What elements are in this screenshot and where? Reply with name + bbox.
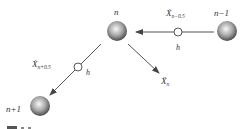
edge-line (81, 44, 101, 64)
particle-chain-diagram: n n−1 n+1 Ẋn−0.5 h Ẋn+0.5 h Ẍn (0, 0, 242, 129)
edge-n-minus-1-to-n (136, 28, 214, 36)
acceleration-arrow (128, 44, 159, 73)
label-n: n (114, 7, 119, 17)
label-n-minus-1: n−1 (214, 8, 229, 18)
caption-glyph (7, 126, 17, 129)
label-n-plus-1: n+1 (6, 104, 21, 114)
spring-label-left: h (86, 68, 90, 77)
particle-n-plus-1-icon (30, 96, 50, 116)
spring-label-top: h (176, 43, 180, 52)
particle-n-minus-1-icon (217, 21, 237, 41)
figure-caption-cut (7, 126, 31, 129)
edge-n-to-n-plus-1 (50, 44, 101, 95)
particle-n-icon (107, 21, 127, 41)
caption-glyph (21, 127, 24, 129)
velocity-label-left: Ẋn+0.5 (31, 59, 51, 70)
acceleration-label: Ẍn (160, 76, 170, 87)
arrow-to-n-plus-1 (50, 70, 75, 95)
spring-node-icon (174, 28, 182, 36)
caption-glyph (28, 127, 31, 129)
velocity-label-top: Ẋn−0.5 (165, 8, 185, 19)
spring-node-icon (74, 63, 82, 71)
